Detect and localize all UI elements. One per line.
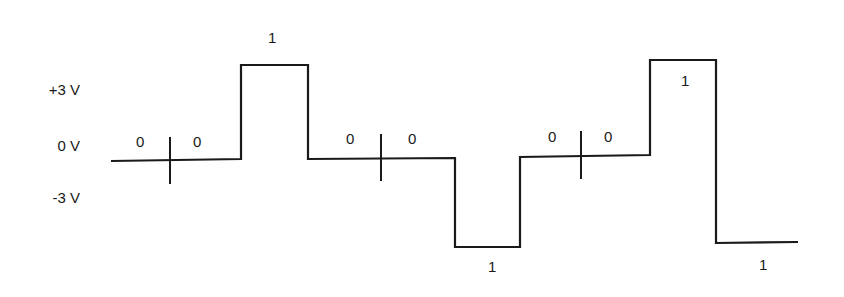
- bit-label: 0: [346, 130, 354, 147]
- bit-label: 1: [759, 256, 767, 273]
- bit-label: 1: [681, 72, 689, 89]
- bit-label: 0: [408, 130, 416, 147]
- axis-label-plus3v: +3 V: [30, 81, 80, 98]
- axis-label-minus3v: -3 V: [30, 189, 80, 206]
- bit-label: 0: [548, 128, 556, 145]
- bit-label: 1: [488, 258, 496, 275]
- signal-waveform: [111, 60, 798, 247]
- axis-label-0v: 0 V: [30, 137, 80, 154]
- bit-label: 1: [268, 29, 276, 46]
- bit-label: 0: [193, 133, 201, 150]
- bit-label: 0: [136, 133, 144, 150]
- bit-label: 0: [604, 128, 612, 145]
- waveform-diagram: [0, 0, 844, 297]
